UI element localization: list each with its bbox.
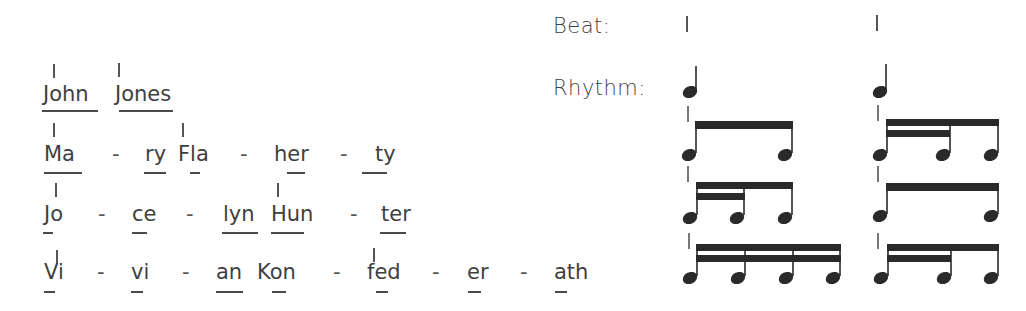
two-sixteenths-eighth-icon [681,182,793,226]
two-eighth-notes-icon [680,121,793,163]
quarter-note-icon [681,66,698,100]
rhythm-notation [0,0,1026,311]
two-sixteenths-eighth-icon [872,244,999,286]
four-sixteenth-notes-icon [681,244,841,286]
two-sixteenths-eighth-icon [871,119,999,163]
quarter-note-icon [871,64,888,100]
two-eighth-notes-icon [871,183,999,224]
